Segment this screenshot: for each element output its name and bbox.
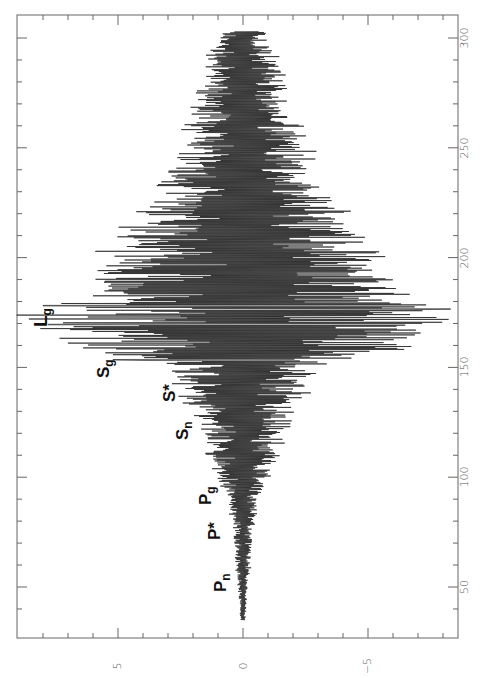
amplitude-axis-ticks [43, 628, 443, 638]
phase-label-Sg: Sg [94, 359, 116, 378]
time-tick-label-300: 300 [458, 28, 471, 49]
seismogram-chart: 50 100 150 200 250 300 5 0 −5 Pn P* Pg S… [0, 0, 485, 678]
time-axis-ticks [448, 38, 458, 609]
phase-label-Lg: Lg [30, 308, 54, 327]
time-tick-label-250: 250 [458, 138, 471, 159]
top-axis-ticks [43, 15, 443, 25]
phase-label-Pg: Pg [196, 486, 218, 505]
seismogram-trace [17, 32, 451, 620]
time-axis-labels: 50 100 150 200 250 300 [458, 28, 471, 595]
amp-tick-label-5: 5 [111, 663, 124, 670]
amplitude-axis-labels: 5 0 −5 [111, 658, 374, 674]
amp-tick-label-minus5: −5 [361, 658, 374, 674]
time-tick-label-50: 50 [458, 580, 471, 594]
time-tick-label-200: 200 [458, 248, 471, 269]
phase-label-Sn: Sn [173, 421, 195, 440]
left-axis-ticks [17, 38, 27, 609]
time-tick-label-100: 100 [458, 467, 471, 488]
phase-label-Pn: Pn [211, 573, 233, 592]
time-tick-label-150: 150 [458, 357, 471, 378]
amp-tick-label-0: 0 [237, 663, 250, 670]
phase-label-Sstar: S* [160, 384, 179, 402]
phase-label-Pstar: P* [205, 522, 224, 540]
